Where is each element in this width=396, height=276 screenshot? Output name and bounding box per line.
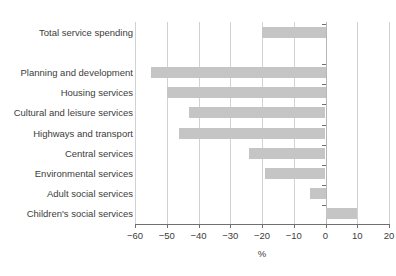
x-tick-label: −60 xyxy=(127,230,143,241)
x-tick xyxy=(294,224,295,228)
x-tick xyxy=(389,224,390,228)
y-axis-label: Housing services xyxy=(1,87,133,98)
bar xyxy=(179,128,325,139)
bar-row xyxy=(135,168,389,179)
y-tick xyxy=(322,64,326,65)
y-tick xyxy=(322,165,326,166)
x-axis-title: % xyxy=(0,248,396,259)
bar xyxy=(265,168,325,179)
x-tick-label: −50 xyxy=(159,230,175,241)
x-tick-label: −20 xyxy=(254,230,270,241)
y-axis-label: Adult social services xyxy=(1,188,133,199)
x-tick-label: −40 xyxy=(190,230,206,241)
y-axis-label: Environmental services xyxy=(1,168,133,179)
y-axis-label: Central services xyxy=(1,148,133,159)
bar xyxy=(310,188,326,199)
y-axis-label: Children's social services xyxy=(1,208,133,219)
x-tick xyxy=(135,224,136,228)
x-tick-label: −30 xyxy=(222,230,238,241)
x-tick-label: 20 xyxy=(384,230,395,241)
bar xyxy=(189,107,326,118)
y-axis-label: Total service spending xyxy=(1,27,133,38)
bar-row xyxy=(135,27,389,38)
plot-area xyxy=(135,22,389,224)
bar xyxy=(151,67,326,78)
y-axis-label: Highways and transport xyxy=(1,128,133,139)
x-tick-label: −10 xyxy=(286,230,302,241)
x-tick-label: 0 xyxy=(323,230,328,241)
gridline xyxy=(389,22,390,224)
x-axis-title-text: % xyxy=(130,248,266,259)
bar-row xyxy=(135,208,389,219)
y-axis-label: Planning and development xyxy=(1,67,133,78)
bar-row xyxy=(135,188,389,199)
y-tick xyxy=(322,185,326,186)
bar xyxy=(326,208,358,219)
y-tick xyxy=(322,205,326,206)
bar xyxy=(249,148,325,159)
y-tick xyxy=(322,104,326,105)
x-tick xyxy=(326,224,327,228)
x-tick-label: 10 xyxy=(352,230,363,241)
y-tick xyxy=(322,145,326,146)
y-tick xyxy=(322,125,326,126)
bar-row xyxy=(135,87,389,98)
y-axis-label: Cultural and leisure services xyxy=(1,107,133,118)
x-tick xyxy=(230,224,231,228)
bar-row xyxy=(135,67,389,78)
bar-row xyxy=(135,148,389,159)
chart-figure: Total service spendingPlanning and devel… xyxy=(0,0,396,276)
x-tick xyxy=(199,224,200,228)
x-tick xyxy=(357,224,358,228)
bar-row xyxy=(135,128,389,139)
bar xyxy=(262,27,326,38)
x-tick xyxy=(262,224,263,228)
y-axis-category-labels: Total service spendingPlanning and devel… xyxy=(0,22,133,224)
bar-row xyxy=(135,107,389,118)
y-tick xyxy=(322,84,326,85)
x-tick xyxy=(167,224,168,228)
bar xyxy=(167,87,326,98)
y-tick xyxy=(322,24,326,25)
